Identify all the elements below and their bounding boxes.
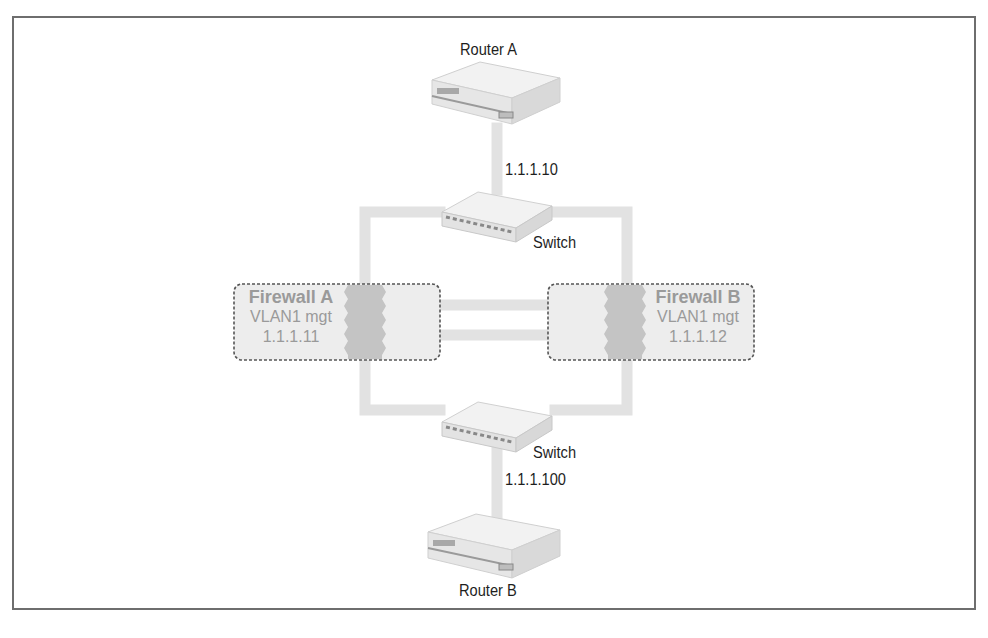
firewall-b-ip: 1.1.1.12: [643, 327, 753, 347]
network-diagram: [0, 0, 988, 638]
router-a-icon: [432, 62, 560, 124]
firewall-a-vlan: VLAN1 mgt: [236, 307, 346, 327]
router-a-ip-label: 1.1.1.10: [505, 160, 558, 180]
firewall-b-zigzag-icon: [604, 285, 646, 359]
firewall-a-zigzag-icon: [344, 285, 386, 359]
firewall-b-labels: Firewall B VLAN1 mgt 1.1.1.12: [643, 287, 753, 347]
firewall-a-ip: 1.1.1.11: [236, 327, 346, 347]
switch-top-label: Switch: [533, 233, 576, 253]
firewall-b-title: Firewall B: [643, 287, 753, 307]
switch-bottom-ip-label: 1.1.1.100: [505, 470, 566, 490]
firewall-b-vlan: VLAN1 mgt: [643, 307, 753, 327]
router-b-label: Router B: [459, 581, 517, 601]
router-a-label: Router A: [460, 40, 517, 60]
router-b-icon: [428, 514, 560, 578]
firewall-a-labels: Firewall A VLAN1 mgt 1.1.1.11: [236, 287, 346, 347]
switch-bottom-label: Switch: [533, 443, 576, 463]
firewall-a-title: Firewall A: [236, 287, 346, 307]
